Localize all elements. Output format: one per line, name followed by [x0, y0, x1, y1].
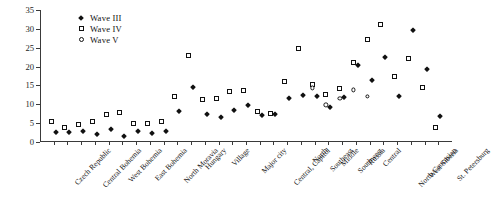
- y-tick-label: 35: [8, 5, 34, 15]
- data-point: [120, 113, 125, 118]
- x-tick: [411, 141, 412, 145]
- y-tick-label: 0: [8, 137, 34, 147]
- x-tick-label: St. Petersburg: [455, 146, 491, 183]
- data-point: [230, 91, 235, 96]
- y-tick-label: 10: [8, 99, 34, 109]
- data-point: [161, 121, 166, 126]
- x-tick: [260, 141, 261, 145]
- x-tick: [328, 141, 329, 145]
- data-point: [354, 90, 359, 95]
- legend-item-wave-v: Wave V: [75, 34, 122, 45]
- y-tick: [36, 10, 40, 11]
- legend-label: Wave V: [90, 35, 119, 45]
- x-tick-label: West Siberia: [427, 146, 460, 180]
- y-tick: [36, 48, 40, 49]
- x-tick: [191, 141, 192, 145]
- data-point: [367, 39, 372, 44]
- data-point: [147, 123, 152, 128]
- legend-item-wave-iv: Wave IV: [75, 23, 122, 34]
- filled-diamond-icon: [75, 16, 87, 20]
- x-tick: [356, 141, 357, 145]
- legend-label: Wave III: [90, 13, 122, 23]
- x-tick-label: Major city: [260, 146, 289, 175]
- data-point: [244, 90, 249, 95]
- data-point: [436, 128, 441, 133]
- y-tick-label: 5: [8, 118, 34, 128]
- data-point: [92, 122, 97, 127]
- data-point: [175, 97, 180, 102]
- open-square-icon: [75, 26, 87, 31]
- y-tick: [36, 29, 40, 30]
- x-tick: [287, 141, 288, 145]
- x-tick-label: Middle: [339, 146, 361, 168]
- x-tick: [177, 141, 178, 145]
- y-tick-label: 15: [8, 80, 34, 90]
- open-circle-icon: [75, 37, 87, 42]
- data-point: [408, 58, 413, 63]
- x-tick: [301, 141, 302, 145]
- data-point: [381, 24, 386, 29]
- data-point: [395, 77, 400, 82]
- data-point: [340, 89, 345, 94]
- data-point: [285, 81, 290, 86]
- y-axis-line: [40, 10, 41, 142]
- x-tick: [438, 141, 439, 145]
- x-tick: [67, 141, 68, 145]
- x-tick: [383, 141, 384, 145]
- x-tick: [342, 141, 343, 145]
- data-point: [189, 56, 194, 61]
- y-tick: [36, 123, 40, 124]
- y-tick-label: 20: [8, 62, 34, 72]
- x-tick: [370, 141, 371, 145]
- data-point: [51, 121, 56, 126]
- x-tick: [122, 141, 123, 145]
- x-tick: [219, 141, 220, 145]
- data-point: [367, 96, 372, 101]
- data-point: [216, 98, 221, 103]
- data-point: [312, 88, 317, 93]
- data-point: [422, 87, 427, 92]
- x-tick: [425, 141, 426, 145]
- data-point: [106, 115, 111, 120]
- y-tick-label: 30: [8, 24, 34, 34]
- y-tick: [36, 67, 40, 68]
- legend-label: Wave IV: [90, 24, 122, 34]
- x-tick-label: Village: [229, 146, 251, 168]
- chart-legend: Wave III Wave IV Wave V: [75, 12, 122, 45]
- y-tick: [36, 85, 40, 86]
- x-tick: [150, 141, 151, 145]
- x-tick: [95, 141, 96, 145]
- data-point: [326, 95, 331, 100]
- data-point: [202, 100, 207, 105]
- x-tick: [273, 141, 274, 145]
- x-tick: [205, 141, 206, 145]
- x-tick: [246, 141, 247, 145]
- x-tick: [109, 141, 110, 145]
- data-point: [298, 48, 303, 53]
- x-tick: [164, 141, 165, 145]
- x-tick: [81, 141, 82, 145]
- x-tick: [397, 141, 398, 145]
- x-tick: [232, 141, 233, 145]
- x-tick: [54, 141, 55, 145]
- x-tick: [315, 141, 316, 145]
- y-tick-label: 25: [8, 43, 34, 53]
- y-tick: [36, 142, 40, 143]
- y-tick: [36, 104, 40, 105]
- legend-item-wave-iii: Wave III: [75, 12, 122, 23]
